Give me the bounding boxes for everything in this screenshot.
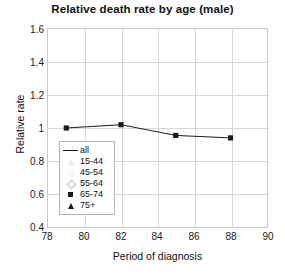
data-point-marker: [118, 122, 123, 127]
legend-item-15-44[interactable]: 15-44: [62, 156, 112, 167]
legend-label: 45-54: [80, 168, 103, 177]
legend-circle-open-icon: [62, 167, 80, 178]
legend-item-75-plus[interactable]: 75+: [62, 200, 112, 211]
legend-item-65-74[interactable]: 65-74: [62, 189, 112, 200]
legend-item-55-64[interactable]: 55-64: [62, 178, 112, 189]
legend-label: 15-44: [80, 157, 103, 166]
legend-label: all: [80, 146, 89, 155]
chart-container: Relative death rate by age (male) 1.6 1.…: [0, 0, 285, 274]
y-axis-tick-label: 1: [38, 124, 44, 134]
x-axis-tick-label: 90: [256, 232, 280, 242]
y-axis-tick-label: 1.4: [30, 58, 44, 68]
x-axis-tick-label: 84: [145, 232, 169, 242]
legend-triangle-filled-icon: [62, 200, 80, 211]
legend-line-icon: [62, 145, 80, 156]
legend-triangle-open-icon: [62, 156, 80, 167]
y-axis-tick-label: 1.2: [30, 91, 44, 101]
legend-label: 55-64: [80, 179, 103, 188]
legend-square-filled-icon: [62, 189, 80, 200]
x-axis-tick-label: 80: [72, 232, 96, 242]
plot-area: all 15-44 45-54 55-64 65-74 75+: [47, 28, 268, 228]
legend-item-all[interactable]: all: [62, 145, 112, 156]
y-axis-tick-label: 1.6: [30, 25, 44, 35]
x-axis-tick-label: 88: [219, 232, 243, 242]
series-line-65-74: [66, 125, 230, 138]
x-axis-tick-label: 78: [35, 232, 59, 242]
legend-diamond-open-icon: [62, 178, 80, 189]
x-axis-tick-label: 82: [109, 232, 133, 242]
y-axis-title: Relative rate: [14, 54, 26, 194]
y-axis-tick-label: 0.8: [30, 157, 44, 167]
chart-legend: all 15-44 45-54 55-64 65-74 75+: [59, 141, 115, 215]
series-markers-65-74: [64, 122, 233, 140]
data-point-marker: [173, 133, 178, 138]
data-point-marker: [228, 135, 233, 140]
data-point-marker: [64, 125, 69, 130]
legend-label: 75+: [80, 201, 95, 210]
legend-item-45-54[interactable]: 45-54: [62, 167, 112, 178]
x-axis-title: Period of diagnosis: [47, 250, 268, 262]
x-axis-tick-label: 86: [182, 232, 206, 242]
y-axis-tick-label: 0.6: [30, 190, 44, 200]
chart-title: Relative death rate by age (male): [0, 3, 285, 15]
legend-label: 65-74: [80, 190, 103, 199]
